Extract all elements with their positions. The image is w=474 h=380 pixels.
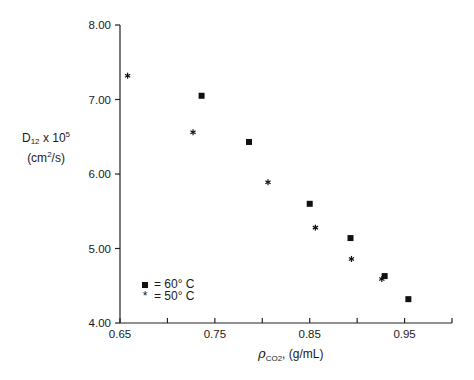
x-axis-label: ρCO2, (g/mL) [258,346,323,363]
square-marker [348,235,354,241]
y-tick-label: 7.00 [89,94,111,106]
scatter-plot: 4.005.006.007.008.000.650.750.850.95 [0,0,474,380]
y-tick-label: 5.00 [89,243,111,255]
square-marker [246,139,252,145]
y-tick-label: 8.00 [89,19,111,31]
star-marker [265,179,270,185]
x-tick-label: 0.75 [204,328,226,340]
x-tick-label: 0.95 [393,328,415,340]
star-marker [313,225,318,231]
y-axis-label: D12 x 105 (cm2/s) [22,128,70,165]
x-tick-label: 0.85 [299,328,321,340]
star-marker [190,129,195,135]
square-marker [199,93,205,99]
star-marker [125,73,130,79]
data-points [125,73,411,303]
x-tick-label: 0.65 [109,328,131,340]
star-marker-icon: * [140,290,150,302]
legend: = 60° C * = 50° C [140,278,195,302]
star-marker [349,256,354,262]
legend-item-50c: * = 50° C [140,290,195,302]
square-marker [405,296,411,302]
square-marker [307,201,313,207]
y-tick-label: 6.00 [89,168,111,180]
y-tick-label: 4.00 [89,317,111,329]
